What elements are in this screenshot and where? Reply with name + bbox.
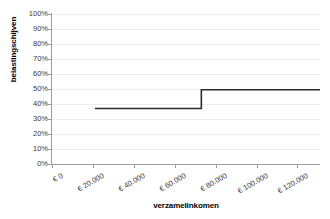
gridline-y — [52, 89, 320, 90]
x-axis-line — [51, 164, 320, 165]
x-tick-mark — [134, 164, 135, 168]
gridline-y — [52, 74, 320, 75]
gridline-y — [52, 104, 320, 105]
gridline-y — [52, 149, 320, 150]
x-tick-label-text: € 40.000 — [117, 171, 147, 193]
y-tick-label: 80% — [4, 39, 48, 48]
x-tick-label-text: € 80.000 — [198, 171, 228, 193]
x-tick-mark — [216, 164, 217, 168]
gridline-y — [52, 119, 320, 120]
y-tick-label: 70% — [4, 54, 48, 63]
gridline-y — [52, 134, 320, 135]
y-tick-label: 0% — [4, 159, 48, 168]
x-axis-title: verzamelinkomen — [52, 201, 320, 210]
y-tick-label: 60% — [4, 69, 48, 78]
gridline-y — [52, 59, 320, 60]
y-tick-label: 90% — [4, 24, 48, 33]
y-tick-label: 10% — [4, 144, 48, 153]
x-tick-mark — [175, 164, 176, 168]
y-tick-label: 100% — [4, 9, 48, 18]
x-tick-label-text: € 100.000 — [236, 171, 269, 195]
gridline-y — [52, 44, 320, 45]
gridline-y — [52, 14, 320, 15]
x-tick-mark — [52, 164, 53, 168]
chart-container: belastingschijven 0%10%20%30%40%50%60%70… — [0, 0, 330, 219]
x-tick-label-text: € 60.000 — [157, 171, 187, 193]
x-tick-label-text: € 20.000 — [76, 171, 106, 193]
x-tick-mark — [93, 164, 94, 168]
x-tick-mark — [257, 164, 258, 168]
x-tick-mark — [297, 164, 298, 168]
y-axis-line — [51, 13, 52, 165]
y-tick-label: 50% — [4, 84, 48, 93]
y-tick-label: 30% — [4, 114, 48, 123]
x-tick-label-text: € 0 — [51, 171, 65, 184]
y-tick-label: 40% — [4, 99, 48, 108]
gridline-y — [52, 29, 320, 30]
plot-area — [52, 14, 320, 164]
y-tick-label: 20% — [4, 129, 48, 138]
x-tick-label-text: € 120.000 — [277, 171, 310, 195]
